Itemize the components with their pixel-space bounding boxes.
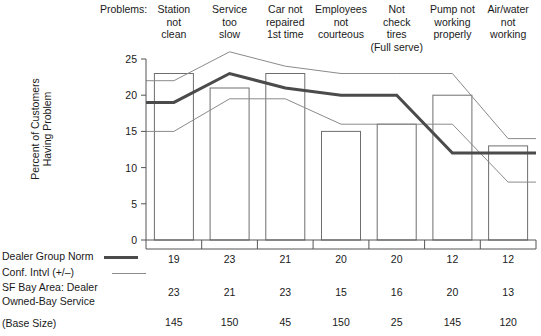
sf-value-1: 21 (210, 286, 250, 298)
legend-row-norm: Dealer Group Norm (0, 248, 160, 264)
norm-value-1: 23 (210, 253, 250, 265)
legend-sf-label-line1: SF Bay Area: Dealer (2, 280, 98, 294)
base-value-0: 145 (154, 316, 194, 328)
sf-value-0: 23 (154, 286, 194, 298)
norm-value-5: 12 (432, 253, 472, 265)
legend-ci-swatch (112, 273, 146, 274)
sf-value-2: 23 (265, 286, 305, 298)
base-value-6: 120 (488, 316, 528, 328)
bar-1 (210, 88, 249, 240)
bar-4 (377, 124, 416, 240)
legend-base-label: (Base Size) (2, 316, 56, 330)
bar-0 (154, 74, 193, 241)
legend-ci-label: Conf. Intvl (+/–) (2, 264, 74, 280)
y-tick-label: 20 (125, 89, 137, 101)
legend-norm-swatch (104, 256, 138, 259)
bar-6 (489, 146, 528, 240)
sf-value-4: 16 (377, 286, 417, 298)
legend-sf-label-line2: Owned-Bay Service (2, 294, 98, 308)
sf-value-3: 15 (321, 286, 361, 298)
bar-3 (322, 131, 361, 240)
norm-value-2: 21 (265, 253, 305, 265)
norm-value-3: 20 (321, 253, 361, 265)
legend-sf-label: SF Bay Area: Dealer Owned-Bay Service (2, 280, 98, 308)
base-value-2: 45 (265, 316, 305, 328)
legend: Dealer Group Norm Conf. Intvl (+/–) SF B… (0, 248, 160, 280)
norm-value-0: 19 (154, 253, 194, 265)
base-value-3: 150 (321, 316, 361, 328)
y-tick-label: 10 (125, 162, 137, 174)
y-tick-label: 25 (125, 53, 137, 65)
y-tick-label: 15 (125, 125, 137, 137)
ci-lower-line (146, 99, 536, 182)
bar-5 (433, 95, 472, 240)
sf-value-6: 13 (488, 286, 528, 298)
sf-value-5: 20 (432, 286, 472, 298)
chart-page: Problems: StationnotcleanServicetooslowC… (0, 0, 541, 336)
y-tick-label: 5 (131, 198, 137, 210)
base-value-5: 145 (432, 316, 472, 328)
base-value-4: 25 (377, 316, 417, 328)
legend-row-ci: Conf. Intvl (+/–) (0, 264, 160, 280)
legend-norm-label: Dealer Group Norm (2, 248, 94, 264)
norm-value-4: 20 (377, 253, 417, 265)
y-tick-label: 0 (131, 234, 137, 246)
norm-value-6: 12 (488, 253, 528, 265)
base-value-1: 150 (210, 316, 250, 328)
